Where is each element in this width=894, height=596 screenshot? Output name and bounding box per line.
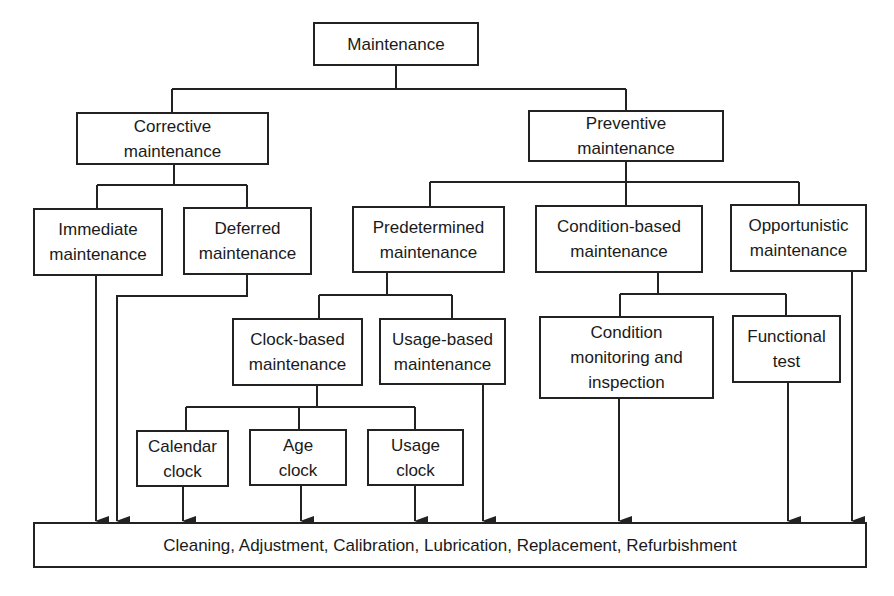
node-label: maintenance [249,352,346,377]
node-label: Age [283,433,313,458]
node-deferred-maintenance: Deferred maintenance [183,207,312,275]
node-label: Maintenance [347,32,444,57]
node-label: Cleaning, Adjustment, Calibration, Lubri… [163,533,737,558]
node-label: test [773,349,800,374]
node-label: inspection [588,370,665,395]
node-label: Calendar [148,434,217,459]
node-label: Predetermined [373,215,485,240]
node-label: maintenance [394,352,491,377]
node-label: clock [163,459,202,484]
node-label: Clock-based [250,327,345,352]
node-label: Deferred [214,216,280,241]
node-label: Immediate [58,217,137,242]
node-label: monitoring and [570,345,682,370]
node-predetermined-maintenance: Predetermined maintenance [352,206,505,273]
node-immediate-maintenance: Immediate maintenance [33,208,163,276]
node-label: Usage [391,433,440,458]
node-corrective-maintenance: Corrective maintenance [76,112,269,165]
node-label: Condition-based [557,214,681,239]
node-label: Opportunistic [748,213,848,238]
node-calendar-clock: Calendar clock [136,430,229,487]
node-label: maintenance [380,240,477,265]
node-condition-monitoring-inspection: Condition monitoring and inspection [539,316,714,399]
node-label: Preventive [586,111,666,136]
node-label: Usage-based [392,327,493,352]
node-label: maintenance [570,239,667,264]
node-usage-clock: Usage clock [367,429,464,486]
node-label: clock [396,458,435,483]
node-label: maintenance [577,136,674,161]
node-maintenance-actions: Cleaning, Adjustment, Calibration, Lubri… [33,522,867,568]
node-label: Corrective [134,114,211,139]
node-label: clock [279,458,318,483]
node-label: maintenance [124,139,221,164]
node-maintenance: Maintenance [313,22,479,66]
node-label: maintenance [199,241,296,266]
node-preventive-maintenance: Preventive maintenance [528,110,724,162]
node-label: Functional [747,324,825,349]
node-opportunistic-maintenance: Opportunistic maintenance [730,204,867,272]
node-label: maintenance [750,238,847,263]
node-clock-based-maintenance: Clock-based maintenance [232,318,363,386]
node-usage-based-maintenance: Usage-based maintenance [379,318,506,385]
node-functional-test: Functional test [732,315,841,383]
node-condition-based-maintenance: Condition-based maintenance [535,205,703,273]
node-age-clock: Age clock [249,429,347,486]
connector-lines [0,0,894,596]
node-label: maintenance [49,242,146,267]
node-label: Condition [591,320,663,345]
